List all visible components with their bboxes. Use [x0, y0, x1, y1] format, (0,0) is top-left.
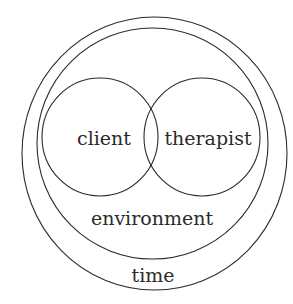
therapist-label: therapist — [164, 127, 252, 149]
time-label: time — [132, 264, 175, 286]
time-circle — [22, 17, 287, 290]
diagram-canvas: client therapist environment time — [0, 0, 293, 304]
client-label: client — [77, 127, 131, 149]
environment-label: environment — [91, 207, 214, 229]
